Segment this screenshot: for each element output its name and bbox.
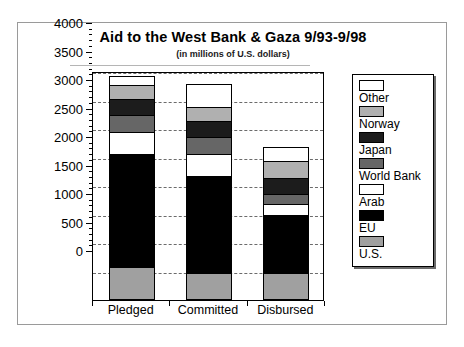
x-tick-mark bbox=[92, 301, 93, 306]
legend-swatch bbox=[359, 132, 384, 143]
y-tick-minor bbox=[89, 63, 92, 64]
bar-segment bbox=[110, 100, 154, 117]
bar-segment bbox=[110, 86, 154, 99]
y-tick-mark bbox=[86, 52, 92, 53]
bar-segment bbox=[264, 148, 308, 162]
bar-segment bbox=[264, 274, 308, 299]
gridline bbox=[93, 73, 323, 74]
bar-committed[interactable] bbox=[186, 84, 232, 300]
y-tick-minor bbox=[89, 69, 92, 70]
bar-segment bbox=[110, 77, 154, 87]
legend-item[interactable]: U.S. bbox=[359, 236, 427, 261]
title-divider bbox=[70, 65, 310, 66]
legend-label: World Bank bbox=[359, 169, 427, 183]
bar-segment bbox=[264, 205, 308, 216]
y-tick-label: 1000 bbox=[54, 187, 83, 202]
y-tick-label: 4000 bbox=[54, 16, 83, 31]
y-tick-minor bbox=[89, 34, 92, 35]
bar-segment bbox=[264, 216, 308, 274]
legend-item[interactable]: Japan bbox=[359, 132, 427, 157]
bar-segment bbox=[264, 195, 308, 205]
legend-item[interactable]: Other bbox=[359, 80, 427, 105]
bar-segment bbox=[187, 108, 231, 122]
y-tick-label: 1500 bbox=[54, 158, 83, 173]
y-tick-mark bbox=[86, 23, 92, 24]
bar-segment bbox=[110, 116, 154, 133]
plot-area bbox=[92, 73, 324, 301]
y-tick-label: 3500 bbox=[54, 44, 83, 59]
legend-label: Other bbox=[359, 91, 427, 105]
bar-pledged[interactable] bbox=[109, 76, 155, 300]
y-axis: 40003500300025002000150010005000 bbox=[18, 23, 92, 251]
x-axis: PledgedCommittedDisbursed bbox=[92, 303, 324, 323]
bar-segment bbox=[264, 179, 308, 196]
legend-swatch bbox=[359, 184, 384, 195]
y-tick-minor bbox=[89, 40, 92, 41]
legend-swatch bbox=[359, 210, 384, 221]
legend-swatch bbox=[359, 158, 384, 169]
legend-swatch bbox=[359, 80, 384, 91]
x-tick-label: Pledged bbox=[108, 303, 154, 317]
legend-label: U.S. bbox=[359, 247, 427, 261]
legend-item[interactable]: Norway bbox=[359, 106, 427, 131]
legend-label: Arab bbox=[359, 195, 427, 209]
bar-segment bbox=[187, 155, 231, 177]
y-tick-minor bbox=[89, 29, 92, 30]
bar-segment bbox=[264, 162, 308, 179]
bar-segment bbox=[187, 177, 231, 274]
legend-item[interactable]: EU bbox=[359, 210, 427, 235]
y-tick-label: 0 bbox=[76, 244, 83, 259]
chart-figure: Aid to the West Bank & Gaza 9/93-9/98 (i… bbox=[17, 22, 447, 325]
bar-segment bbox=[110, 155, 154, 267]
bar-segment bbox=[187, 122, 231, 139]
x-tick-mark bbox=[324, 301, 325, 306]
bar-segment bbox=[187, 274, 231, 299]
legend-swatch bbox=[359, 106, 384, 117]
y-tick-label: 3000 bbox=[54, 73, 83, 88]
legend-label: Norway bbox=[359, 117, 427, 131]
x-tick-label: Committed bbox=[178, 303, 238, 317]
legend-item[interactable]: Arab bbox=[359, 184, 427, 209]
y-tick-minor bbox=[89, 46, 92, 47]
y-tick-minor bbox=[89, 57, 92, 58]
bar-disbursed[interactable] bbox=[263, 147, 309, 300]
legend-swatch bbox=[359, 236, 384, 247]
legend-label: Japan bbox=[359, 143, 427, 157]
legend-label: EU bbox=[359, 221, 427, 235]
x-tick-mark bbox=[169, 301, 170, 306]
bar-segment bbox=[187, 85, 231, 107]
bar-segment bbox=[110, 268, 154, 299]
y-tick-label: 2500 bbox=[54, 101, 83, 116]
bar-segment bbox=[110, 133, 154, 155]
y-tick-label: 500 bbox=[61, 215, 83, 230]
y-tick-label: 2000 bbox=[54, 130, 83, 145]
x-tick-mark bbox=[247, 301, 248, 306]
x-tick-label: Disbursed bbox=[257, 303, 313, 317]
chart-legend: OtherNorwayJapanWorld BankArabEUU.S. bbox=[352, 74, 434, 267]
bar-segment bbox=[187, 138, 231, 155]
legend-item[interactable]: World Bank bbox=[359, 158, 427, 183]
